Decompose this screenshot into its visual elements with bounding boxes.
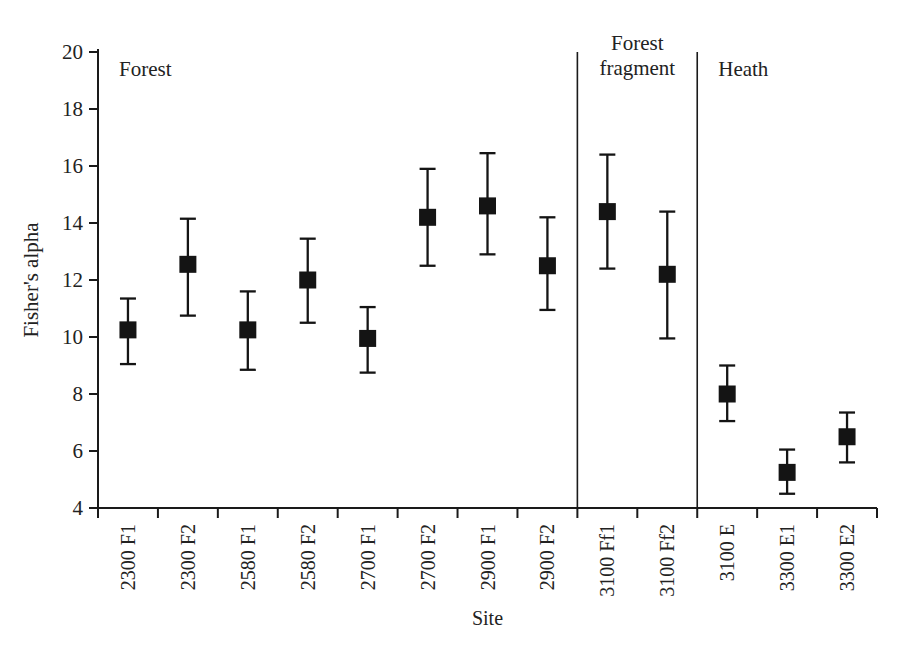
data-point-marker <box>659 266 676 283</box>
y-tick-label: 18 <box>62 97 83 121</box>
x-category-label: 3100 Ff2 <box>656 524 678 597</box>
x-category-label: 3100 E <box>716 524 738 581</box>
x-category-label: 2900 F1 <box>477 524 499 590</box>
x-category-label: 3300 E1 <box>776 524 798 591</box>
y-tick-label: 12 <box>62 268 83 292</box>
figure-page: 4681012141618202300 F12300 F22580 F12580… <box>0 0 908 662</box>
x-category-label: 2700 F2 <box>417 524 439 590</box>
x-category-label: 2300 F1 <box>117 524 139 590</box>
x-category-label: 2900 F2 <box>536 524 558 590</box>
data-point-marker <box>419 209 436 226</box>
data-point-marker <box>839 428 856 445</box>
x-axis-title: Site <box>472 607 503 629</box>
x-category-label: 3100 Ff1 <box>596 524 618 597</box>
data-point-marker <box>119 321 136 338</box>
y-axis-title: Fisher's alpha <box>19 222 43 338</box>
data-point-marker <box>539 257 556 274</box>
group-label-forest-fragment: Forest <box>611 31 664 55</box>
x-category-label: 2580 F2 <box>297 524 319 590</box>
data-point-marker <box>719 386 736 403</box>
data-point-marker <box>239 321 256 338</box>
y-tick-label: 8 <box>73 382 84 406</box>
data-point-marker <box>179 256 196 273</box>
error-bar-chart: 4681012141618202300 F12300 F22580 F12580… <box>0 0 908 662</box>
x-category-label: 2300 F2 <box>177 524 199 590</box>
y-tick-label: 14 <box>62 211 84 235</box>
group-label-forest: Forest <box>119 57 172 81</box>
group-label-heath: Heath <box>718 57 769 81</box>
y-tick-label: 16 <box>62 154 83 178</box>
y-tick-label: 6 <box>73 439 84 463</box>
data-point-marker <box>599 203 616 220</box>
data-point-marker <box>299 272 316 289</box>
x-category-label: 2700 F1 <box>357 524 379 590</box>
data-point-marker <box>779 464 796 481</box>
x-category-label: 2580 F1 <box>237 524 259 590</box>
y-tick-label: 20 <box>62 40 83 64</box>
y-tick-label: 10 <box>62 325 83 349</box>
group-label-forest-fragment: fragment <box>599 56 675 80</box>
data-point-marker <box>359 330 376 347</box>
x-category-label: 3300 E2 <box>836 524 858 591</box>
data-point-marker <box>479 197 496 214</box>
y-tick-label: 4 <box>73 496 84 520</box>
